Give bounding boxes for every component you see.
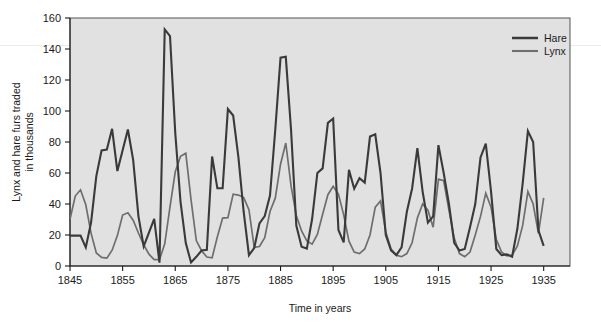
chart-figure: 020406080100120140160 184518551865187518…: [0, 0, 601, 323]
x-axis: 1845185518651875188518951905191519251935: [58, 266, 570, 286]
x-tick-label: 1845: [58, 274, 82, 286]
x-tick-label: 1915: [426, 274, 450, 286]
x-tick-marks: [70, 266, 544, 271]
x-tick-label: 1875: [216, 274, 240, 286]
legend-label-lynx: Lynx: [544, 45, 567, 57]
y-tick-label: 100: [43, 105, 61, 117]
x-tick-label: 1855: [110, 274, 134, 286]
lynx-hare-line-chart: 020406080100120140160 184518551865187518…: [0, 0, 601, 323]
y-tick-label: 20: [49, 229, 61, 241]
y-axis: 020406080100120140160: [43, 12, 70, 272]
y-tick-label: 140: [43, 43, 61, 55]
x-tick-label: 1895: [321, 274, 345, 286]
y-tick-label: 0: [55, 260, 61, 272]
y-tick-marks: [65, 18, 70, 266]
y-axis-title-line-1: Lynx and hare furs traded: [10, 82, 22, 201]
y-tick-label: 160: [43, 12, 61, 24]
x-tick-label: 1865: [163, 274, 187, 286]
x-tick-label: 1925: [479, 274, 503, 286]
x-tick-labels: 1845185518651875188518951905191519251935: [58, 274, 556, 286]
y-tick-label: 40: [49, 198, 61, 210]
x-tick-label: 1935: [531, 274, 555, 286]
y-tick-label: 60: [49, 167, 61, 179]
legend-label-hare: Hare: [544, 32, 567, 44]
x-tick-label: 1905: [374, 274, 398, 286]
y-tick-label: 80: [49, 136, 61, 148]
y-tick-labels: 020406080100120140160: [43, 12, 61, 272]
x-tick-label: 1885: [268, 274, 292, 286]
y-tick-label: 120: [43, 74, 61, 86]
y-axis-title-line-2: in thousands: [23, 112, 35, 172]
x-axis-title: Time in years: [289, 302, 352, 314]
